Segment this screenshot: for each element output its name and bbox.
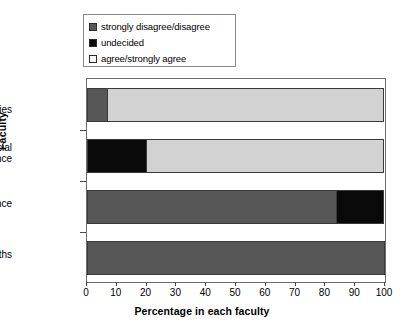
x-axis-tick-label: 80: [309, 287, 339, 298]
legend-swatch-strongly-disagree: [89, 23, 97, 31]
legend-item-agree: agree/strongly agree: [89, 51, 231, 66]
x-axis-tick-label: 100: [369, 287, 399, 298]
bar-social-science: [87, 139, 383, 173]
legend-swatch-undecided: [89, 39, 97, 47]
x-axis-tick: [175, 282, 176, 286]
x-axis-tick: [354, 282, 355, 286]
bar-segment-agree: [146, 139, 384, 173]
bars-container: [87, 79, 385, 282]
x-axis-tick: [295, 282, 296, 286]
y-axis-label-humanities: Humanities: [0, 104, 12, 115]
bar-segment-agree: [107, 88, 384, 122]
x-axis-tick-label: 10: [101, 287, 131, 298]
x-axis-tick: [265, 282, 266, 286]
legend-label-strongly-disagree: strongly disagree/disagree: [101, 22, 210, 32]
y-axis-label-maths: Maths: [0, 249, 12, 260]
x-axis-tick: [116, 282, 117, 286]
x-axis-tick: [324, 282, 325, 286]
bar-segment-undecided: [87, 139, 147, 173]
x-axis-tick-label: 40: [190, 287, 220, 298]
legend-label-undecided: undecided: [101, 38, 144, 48]
legend-label-agree: agree/strongly agree: [101, 54, 186, 64]
bar-science: [87, 190, 383, 224]
y-axis-label-science: Science: [0, 198, 12, 209]
x-axis-tick: [146, 282, 147, 286]
bar-segment-strongly-disagree: [87, 88, 108, 122]
bar-humanities: [87, 88, 383, 122]
x-axis-tick: [384, 282, 385, 286]
x-axis-tick: [86, 282, 87, 286]
x-axis-tick: [205, 282, 206, 286]
x-axis-title: Percentage in each faculty: [0, 305, 404, 317]
x-axis-tick: [235, 282, 236, 286]
legend-item-undecided: undecided: [89, 35, 231, 50]
legend-swatch-agree: [89, 55, 97, 63]
x-axis-tick-label: 50: [220, 287, 250, 298]
y-axis-label-social-science: Social Science: [0, 142, 12, 164]
x-axis-tick-label: 30: [160, 287, 190, 298]
bar-segment-strongly-disagree: [87, 241, 385, 275]
bar-segment-strongly-disagree: [87, 190, 337, 224]
legend-item-strongly-disagree: strongly disagree/disagree: [89, 19, 231, 34]
bar-maths: [87, 241, 384, 275]
bar-segment-undecided: [336, 190, 384, 224]
x-axis-tick-label: 70: [280, 287, 310, 298]
plot-area: [86, 78, 386, 283]
x-axis-tick-label: 60: [250, 287, 280, 298]
chart-legend: strongly disagree/disagree undecided agr…: [83, 14, 236, 67]
x-axis-tick-label: 0: [71, 287, 101, 298]
x-axis-tick-label: 20: [131, 287, 161, 298]
x-axis-tick-label: 90: [339, 287, 369, 298]
